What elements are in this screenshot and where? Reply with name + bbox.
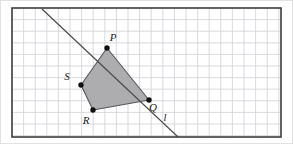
vertex-point-s [78, 82, 83, 87]
point-label-r: R [82, 114, 90, 126]
line-label-l: l [164, 112, 167, 123]
vertex-point-p [104, 45, 109, 50]
vertex-point-r [90, 107, 95, 112]
point-label-q: Q [149, 101, 157, 113]
point-label-s: S [64, 70, 70, 82]
point-label-p: P [109, 31, 117, 43]
grid-background [12, 8, 281, 137]
geometry-figure: PSRQl [0, 0, 293, 144]
figure-canvas: PSRQl [0, 0, 293, 144]
